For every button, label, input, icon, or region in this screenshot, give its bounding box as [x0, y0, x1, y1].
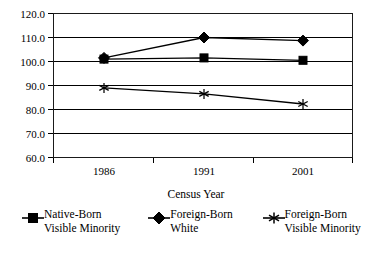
legend-marker-diamond-icon [148, 211, 170, 227]
y-tick-label: 110.0 [21, 32, 46, 44]
x-tick-label-1986: 1986 [93, 165, 116, 177]
legend-label-line2: Visible Minority [44, 222, 120, 236]
series-native-born-visible-minority [100, 54, 307, 64]
data-point-marker-diamond [298, 35, 309, 46]
chart-plot-area: 120.0 110.0 100.0 90.0 80.0 70.0 60.0 19… [0, 0, 386, 205]
legend-marker-asterisk-icon [263, 211, 285, 227]
legend-label-line2: Visible Minority [285, 222, 361, 236]
line-chart: 120.0 110.0 100.0 90.0 80.0 70.0 60.0 19… [0, 0, 386, 254]
y-tick-label: 120.0 [20, 8, 45, 20]
y-tick-label: 60.0 [26, 152, 46, 164]
series-foreign-born-visible-minority [99, 83, 307, 109]
legend-label-line1: Foreign-Born [170, 208, 233, 220]
legend-label: Native-Born Visible Minority [44, 208, 120, 235]
chart-legend: Native-Born Visible Minority Foreign-Bor… [0, 208, 386, 254]
y-tick-label: 100.0 [20, 56, 45, 68]
x-tick-label-1991: 1991 [193, 165, 215, 177]
legend-label-line1: Native-Born [44, 208, 101, 220]
y-tick-label: 80.0 [26, 104, 46, 116]
legend-label: Foreign-Born White [170, 208, 233, 235]
data-point-marker-square [299, 56, 307, 64]
x-axis-tick-labels: 1986 1991 2001 [93, 165, 314, 177]
y-axis-tick-labels: 120.0 110.0 100.0 90.0 80.0 70.0 60.0 [20, 8, 45, 164]
y-axis-ticks [48, 14, 53, 158]
x-axis-ticks [54, 158, 353, 164]
data-point-marker-square [200, 54, 208, 62]
y-tick-label: 90.0 [26, 80, 46, 92]
x-tick-label-2001: 2001 [292, 165, 314, 177]
legend-item-foreign-born-white[interactable]: Foreign-Born White [148, 208, 254, 235]
legend-marker-square-icon [22, 211, 44, 227]
legend-label-line2: White [170, 222, 233, 236]
legend-item-foreign-born-visible-minority[interactable]: Foreign-Born Visible Minority [263, 208, 378, 235]
y-tick-label: 70.0 [26, 128, 46, 140]
legend-item-native-born-visible-minority[interactable]: Native-Born Visible Minority [22, 208, 140, 235]
legend-label-line1: Foreign-Born [285, 208, 348, 220]
x-axis-title: Census Year [168, 188, 225, 200]
legend-label: Foreign-Born Visible Minority [285, 208, 361, 235]
data-point-marker-diamond [199, 32, 210, 43]
